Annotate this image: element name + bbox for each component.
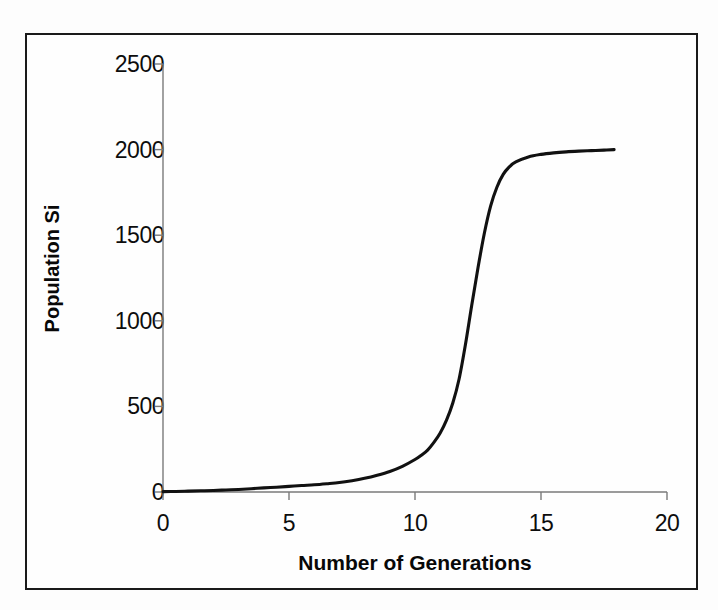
figure-frame: 2500 2000 1500 1000 500 0 0 5 10 15 20 P… — [25, 33, 698, 590]
chart-plot-area — [27, 35, 700, 592]
x-axis-ticks — [163, 492, 667, 500]
y-axis-ticks — [155, 64, 163, 492]
plot-surface: 2500 2000 1500 1000 500 0 0 5 10 15 20 P… — [27, 35, 696, 588]
series-line-population — [163, 150, 614, 492]
